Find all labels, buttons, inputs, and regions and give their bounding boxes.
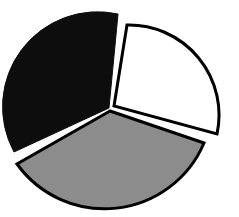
exploded-pie-chart xyxy=(0,0,239,217)
